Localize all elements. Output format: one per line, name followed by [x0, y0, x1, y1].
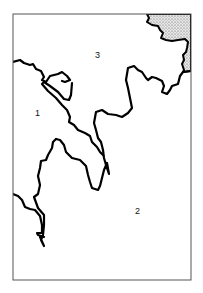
map: 1 2 3 [0, 0, 203, 293]
region-label-3: 3 [95, 50, 100, 60]
region-label-1: 1 [35, 108, 40, 118]
region-label-2: 2 [135, 206, 140, 216]
